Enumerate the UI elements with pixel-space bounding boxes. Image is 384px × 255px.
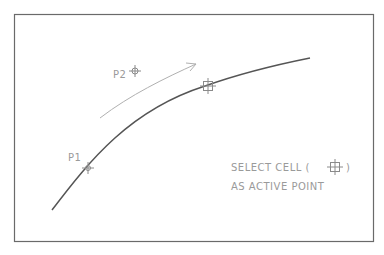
drawing-frame — [15, 15, 374, 242]
point-p2-marker-icon[interactable] — [129, 65, 141, 77]
annotation-line1: SELECT CELL ( — [231, 162, 310, 173]
point-p1-marker-icon[interactable] — [82, 162, 94, 174]
annotation-line2: AS ACTIVE POINT — [231, 181, 325, 192]
annotation-line1-end: ) — [346, 162, 350, 173]
point-p1-label: P1 — [68, 152, 81, 163]
diagram-canvas: P1 P2 SELECT CELL ( ) AS ACTIVE POINT — [0, 0, 384, 255]
cell-point-marker-icon[interactable] — [200, 78, 216, 94]
cell-symbol-icon — [327, 159, 343, 175]
point-p2-label: P2 — [113, 69, 126, 80]
